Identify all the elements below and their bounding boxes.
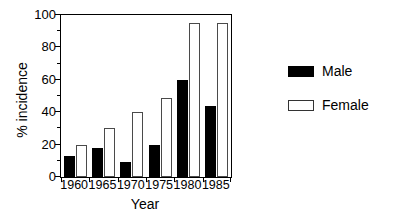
legend-label: Male [322,64,352,78]
bar-female-1970 [132,112,143,177]
y-tick-label: 40 [22,105,56,118]
bar-male-1975 [149,145,160,177]
y-tick-label: 60 [22,73,56,86]
bar-male-1960 [64,156,75,177]
bar-female-1985 [217,23,228,177]
x-tick-label: 1985 [196,178,236,192]
y-axis-minor-tick [57,30,61,31]
plot-area [60,14,232,178]
y-axis-major-tick [55,14,61,15]
y-tick-label: 80 [22,40,56,53]
legend-label: Female [322,98,369,112]
legend-swatch-male [288,66,314,77]
bar-female-1980 [189,23,200,177]
y-axis-minor-tick [57,127,61,128]
y-axis-major-tick [55,111,61,112]
bar-male-1965 [92,148,103,177]
y-axis-major-tick [55,79,61,80]
y-axis-tick-labels: 020406080100 [22,0,56,222]
chart-figure: % incidence 020406080100 196019651970197… [0,0,394,222]
y-tick-label: 20 [22,138,56,151]
legend-swatch-female [288,100,314,111]
y-axis-minor-tick [57,63,61,64]
bar-female-1975 [161,98,172,177]
x-axis-tick-labels: 196019651970197519801985 [60,178,230,194]
x-axis-label: Year [60,196,230,212]
y-axis-minor-tick [57,160,61,161]
chart-legend: MaleFemale [288,54,392,122]
y-tick-label: 0 [22,170,56,183]
legend-item-male[interactable]: Male [288,54,392,88]
bar-male-1970 [120,162,131,177]
bar-male-1985 [205,106,216,177]
legend-item-female[interactable]: Female [288,88,392,122]
y-tick-label: 100 [22,8,56,21]
y-axis-major-tick [55,46,61,47]
bar-female-1960 [76,145,87,177]
y-axis-minor-tick [57,95,61,96]
bar-female-1965 [104,128,115,177]
bar-male-1980 [177,80,188,177]
y-axis-major-tick [55,144,61,145]
